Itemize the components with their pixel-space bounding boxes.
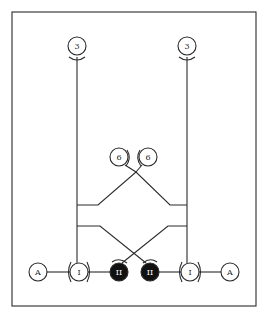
six-left-connector (125, 165, 136, 172)
node-label: II (116, 268, 122, 277)
node-bottom-right-A: A (221, 263, 239, 281)
nodes-group: 3366AIIIIIIA (29, 37, 239, 281)
upper-branch-line (77, 172, 187, 205)
node-label: 6 (116, 153, 121, 162)
frame-border (12, 12, 256, 306)
node-top-left-3: 3 (68, 37, 86, 55)
node-label: 3 (74, 42, 79, 51)
lower-left-cross-line (77, 226, 146, 263)
node-label: A (34, 268, 41, 277)
node-top-right-3: 3 (178, 37, 196, 55)
node-mid-left-6: 6 (110, 148, 128, 166)
six-right-connector (136, 165, 142, 172)
node-label: II (147, 268, 153, 277)
node-bottom-left-I: I (70, 263, 88, 281)
diagram-canvas: 3366AIIIIIIA (0, 0, 262, 318)
node-label: 3 (184, 42, 189, 51)
node-label: I (188, 268, 191, 277)
node-bottom-right-I: I (181, 263, 199, 281)
node-bottom-left-II: II (110, 263, 128, 281)
node-mid-right-6: 6 (139, 148, 157, 166)
node-label: 6 (145, 153, 150, 162)
node-bottom-left-A: A (29, 263, 47, 281)
lower-right-cross-line (122, 226, 187, 263)
node-label: A (226, 268, 233, 277)
node-bottom-right-II: II (141, 263, 159, 281)
node-label: I (77, 268, 80, 277)
